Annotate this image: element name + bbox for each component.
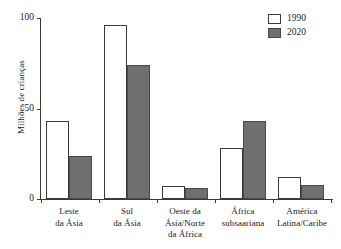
x-category-label-4: América Latina/Caribe — [271, 206, 333, 229]
x-category-line: África — [214, 206, 272, 218]
legend-item-2020: 2020 — [268, 26, 306, 40]
x-category-line: Sul — [98, 206, 156, 218]
bar-1990-africa-subsaariana — [220, 148, 243, 199]
bar-2020-africa-subsaariana — [243, 121, 266, 199]
x-tick-mark-4 — [273, 199, 274, 203]
bar-1990-america-latina-caribe — [278, 177, 301, 199]
y-axis-label: Milhões de crianças — [16, 27, 26, 167]
bar-group-africa-subsaariana — [220, 18, 266, 199]
x-category-line: Oeste da — [156, 206, 214, 218]
bar-1990-leste-da-asia — [46, 121, 69, 199]
bar-1990-oeste-da-asia-norte-da-africa — [162, 186, 185, 199]
x-category-line: da Ásia — [98, 218, 156, 230]
y-tick-label-100: 100 — [8, 13, 34, 23]
x-category-label-2: Oeste da Ásia/Norte da África — [156, 206, 214, 241]
plot-area — [40, 18, 333, 199]
bar-group-america-latina-caribe — [278, 18, 324, 199]
bar-1990-sul-da-asia — [104, 25, 127, 199]
x-category-line: América — [271, 206, 333, 218]
bar-group-oeste-da-asia-norte-da-africa — [162, 18, 208, 199]
bar-group-leste-da-asia — [46, 18, 92, 199]
x-tick-mark-1 — [99, 199, 100, 203]
x-tick-mark-0 — [41, 199, 42, 203]
legend-label-2020: 2020 — [287, 28, 306, 38]
x-category-line: da África — [156, 229, 214, 241]
bar-2020-sul-da-asia — [127, 65, 150, 199]
x-tick-mark-3 — [215, 199, 216, 203]
bar-chart: Milhões de crianças 100 50 0 — [0, 0, 341, 249]
y-tick-label-50: 50 — [8, 104, 34, 114]
bar-2020-america-latina-caribe — [301, 185, 324, 199]
x-category-line: da Ásia — [40, 218, 98, 230]
x-category-label-0: Leste da Ásia — [40, 206, 98, 229]
x-category-label-1: Sul da Ásia — [98, 206, 156, 229]
y-tick-label-0: 0 — [8, 194, 34, 204]
legend: 1990 2020 — [268, 12, 306, 40]
x-category-line: Ásia/Norte — [156, 218, 214, 230]
bar-group-sul-da-asia — [104, 18, 150, 199]
legend-swatch-1990-icon — [268, 14, 281, 24]
legend-item-1990: 1990 — [268, 12, 306, 26]
x-axis-line — [40, 199, 333, 200]
x-category-line: Leste — [40, 206, 98, 218]
bar-2020-oeste-da-asia-norte-da-africa — [185, 188, 208, 199]
x-tick-mark-2 — [157, 199, 158, 203]
x-tick-mark-5 — [331, 199, 332, 203]
x-category-line: Latina/Caribe — [271, 218, 333, 230]
legend-label-1990: 1990 — [287, 14, 306, 24]
legend-swatch-2020-icon — [268, 28, 281, 38]
x-category-line: subsaariana — [214, 218, 272, 230]
bar-2020-leste-da-asia — [69, 156, 92, 199]
x-category-label-3: África subsaariana — [214, 206, 272, 229]
